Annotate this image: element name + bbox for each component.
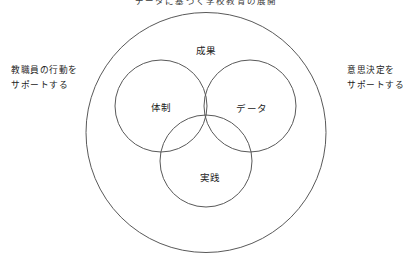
label-circle-data: データ: [236, 101, 268, 115]
diagram-title: データに基づく学校教育の展開: [0, 0, 412, 6]
venn-diagram-graphic: [0, 0, 412, 263]
side-label-right: 意思決定を サポートする: [347, 63, 404, 93]
label-circle-jissen: 実践: [200, 170, 221, 184]
venn-diagram-canvas: データに基づく学校教育の展開 成果 体制 データ 実践 教職員の行動を サポート…: [0, 0, 412, 263]
side-label-left: 教職員の行動を サポートする: [11, 63, 78, 93]
side-label-right-line1: 意思決定を: [347, 63, 404, 78]
side-label-left-line2: サポートする: [11, 78, 78, 93]
side-label-right-line2: サポートする: [347, 78, 404, 93]
label-outer-ring-seika: 成果: [196, 43, 217, 57]
label-circle-taisei: 体制: [151, 100, 172, 114]
side-label-left-line1: 教職員の行動を: [11, 63, 78, 78]
circle-jissen: [160, 115, 252, 207]
